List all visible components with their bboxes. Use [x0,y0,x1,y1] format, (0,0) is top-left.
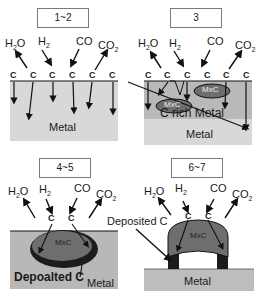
carbon-atom: C [30,70,37,80]
metal-label: Metal [186,128,213,140]
carbon-atom: C [89,70,96,80]
panel-stage-3: 3 H2O H2 CO CO2 C C C C C C MxC M [128,0,256,145]
carbon-atom: C [164,70,171,80]
deposited-carbon-label: Depoalted C [14,270,84,284]
metal-label: Metal [87,277,114,289]
carbide-label: MxC [55,238,71,247]
carbon-atom: C [205,211,212,221]
carbon-atom: C [10,70,17,80]
carbide-label: MxC [190,231,206,240]
deposited-carbon-label: Deposited C [107,215,168,227]
carbon-atom: C [184,70,191,80]
carbon-atom: C [243,70,250,80]
carbon-atom: C [68,213,75,223]
carbon-atom: C [204,70,211,80]
carbon-atom: C [49,70,56,80]
panel-stage-1-2: 1~2 H2O H2 CO CO2 C C C C C C Metal [0,0,128,145]
carbon-atom: C [69,70,76,80]
carbon-atom: C [185,211,192,221]
carbon-atom: C [109,70,116,80]
carbon-atom: C [223,70,230,80]
c-rich-metal-label: C rich Metal [160,106,224,120]
panel-stage-6-7: 6~7 H2O H2 CO CO2 C C MxC Deposited C Me… [128,145,256,290]
carbon-atom: C [145,70,152,80]
carbon-atom: C [48,213,55,223]
metal-label: Metal [184,275,211,287]
carbide-label: MxC [202,85,218,94]
metal-label: Metal [49,121,76,133]
